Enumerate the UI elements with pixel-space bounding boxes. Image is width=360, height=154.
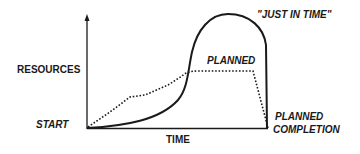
arrow-up-icon (85, 14, 90, 21)
y-axis-label: RESOURCES (17, 65, 80, 75)
planned-completion-label-line1: PLANNED (275, 112, 323, 122)
planned-completion-label-line2: COMPLETION (273, 125, 340, 135)
planned-curve-label: PLANNED (207, 56, 255, 66)
start-label: START (36, 120, 68, 130)
x-axis-label: TIME (166, 135, 190, 145)
just-in-time-label: "JUST IN TIME" (257, 10, 332, 20)
y-axis (85, 14, 90, 129)
